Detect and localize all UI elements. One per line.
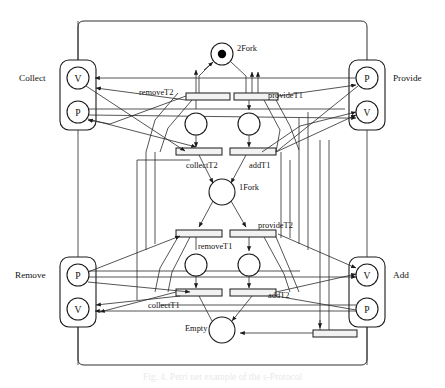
transition-addT2-label: addT2 <box>268 291 289 300</box>
petri-net-figure: V P Collect P V Provide P V Remove V P A… <box>0 0 445 388</box>
place-intermediate-2-circle[interactable] <box>238 113 260 135</box>
module-remove[interactable]: P V Remove <box>15 257 96 327</box>
place-2fork-token <box>218 50 226 58</box>
module-remove-label: Remove <box>15 270 46 280</box>
place-1fork-label: 1Fork <box>239 183 260 192</box>
transition-removeT2[interactable]: removeT2 <box>139 88 230 100</box>
transition-bottom-bar[interactable] <box>313 330 357 337</box>
place-1fork[interactable]: 1Fork <box>209 179 260 205</box>
transition-collectT1-bar[interactable] <box>176 289 222 296</box>
transition-removeT1-label: removeT1 <box>198 242 232 251</box>
module-provide[interactable]: P V Provide <box>349 60 422 130</box>
place-intermediate-1-circle[interactable] <box>185 113 207 135</box>
transition-bottom[interactable] <box>240 320 357 337</box>
transition-addT1[interactable]: addT1 <box>230 148 276 170</box>
module-add-node-p-label: P <box>364 304 369 315</box>
transition-provideT1-label: provideT1 <box>268 91 303 100</box>
module-add[interactable]: V P Add <box>349 257 409 327</box>
place-intermediate-4[interactable] <box>238 254 260 276</box>
module-collect[interactable]: V P Collect <box>19 60 96 130</box>
transition-provideT2-bar[interactable] <box>230 230 276 237</box>
place-intermediate-3[interactable] <box>185 254 207 276</box>
transition-provideT1[interactable]: provideT1 <box>234 91 303 100</box>
module-add-label: Add <box>393 270 409 280</box>
module-collect-node-p-label: P <box>75 107 80 118</box>
petri-net-canvas: V P Collect P V Provide P V Remove V P A… <box>0 0 445 388</box>
module-collect-label: Collect <box>19 73 46 83</box>
figure-caption: Fig. 4. Petri net example of the s-Proto… <box>0 372 445 382</box>
module-provide-node-p-label: P <box>364 73 369 84</box>
module-add-node-v-label: V <box>364 270 371 281</box>
transition-addT1-label: addT1 <box>249 161 270 170</box>
place-intermediate-2[interactable] <box>238 113 260 135</box>
transition-collectT2[interactable]: collectT2 <box>176 148 222 170</box>
transition-addT1-bar[interactable] <box>230 148 276 155</box>
arcs-2fork <box>196 62 258 93</box>
module-remove-node-v-label: V <box>75 304 82 315</box>
place-empty[interactable]: Empty <box>185 317 235 343</box>
transition-provideT2-label: provideT2 <box>258 221 293 230</box>
place-intermediate-4-circle[interactable] <box>238 254 260 276</box>
transition-collectT2-label: collectT2 <box>186 161 218 170</box>
transition-removeT1-bar[interactable] <box>176 230 222 237</box>
place-2fork[interactable]: 2Fork <box>211 43 258 65</box>
transition-collectT1[interactable]: collectT1 <box>148 289 222 310</box>
place-empty-label: Empty <box>185 324 208 333</box>
place-intermediate-1[interactable] <box>185 113 207 135</box>
transition-collectT1-label: collectT1 <box>148 301 180 310</box>
module-provide-node-v-label: V <box>364 107 371 118</box>
module-collect-node-v-label: V <box>75 73 82 84</box>
place-2fork-label: 2Fork <box>237 44 258 53</box>
place-intermediate-3-circle[interactable] <box>185 254 207 276</box>
transition-collectT2-bar[interactable] <box>176 148 222 155</box>
module-provide-label: Provide <box>393 73 422 83</box>
module-remove-node-p-label: P <box>75 270 80 281</box>
transition-provideT2[interactable]: provideT2 <box>230 221 293 237</box>
place-empty-circle[interactable] <box>209 317 235 343</box>
transition-removeT2-bar[interactable] <box>186 93 230 100</box>
